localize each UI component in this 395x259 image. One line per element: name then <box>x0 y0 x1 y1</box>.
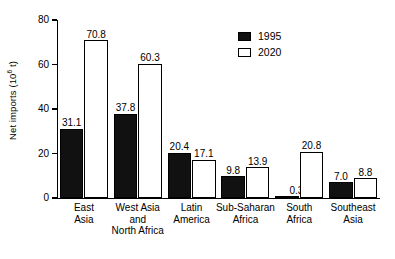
x-axis-category-label-west-asia-and-north-africa: West AsiaandNorth Africa <box>107 202 169 237</box>
y-axis-tick-label-60: 60 <box>38 60 49 70</box>
legend-label-2020: 2020 <box>258 47 281 58</box>
x-axis-category-label-line: America <box>161 214 223 226</box>
x-axis-category-label-line: Asia <box>322 214 384 226</box>
bar-2020-east-asia: 70.8 <box>84 40 108 198</box>
bar-1995-west-asia-and-north-africa: 37.8 <box>114 114 138 198</box>
x-axis-category-label-sub-saharan-africa: Sub-SaharanAfrica <box>215 202 277 225</box>
bar-value-label: 20.4 <box>170 142 189 152</box>
x-axis-category-label-line: Southeast <box>322 202 384 214</box>
x-axis-category-label-line: West Asia <box>107 202 169 214</box>
legend-swatch-2020 <box>238 48 251 58</box>
bar-value-label: 8.8 <box>358 168 372 178</box>
x-axis-category-label-line: North Africa <box>107 225 169 237</box>
x-axis-category-label-line: South <box>268 202 330 214</box>
bar-2020-latin-america: 17.1 <box>192 160 216 198</box>
bar-value-label: 13.9 <box>248 157 267 167</box>
bar-value-label: 7.0 <box>334 172 348 182</box>
x-axis-category-label-latin-america: LatinAmerica <box>161 202 223 225</box>
x-axis-category-label-line: Asia <box>53 214 115 226</box>
bar-2020-west-asia-and-north-africa: 60.3 <box>138 64 162 198</box>
y-axis-line <box>57 20 58 198</box>
bar-2020-southeast-asia: 8.8 <box>354 178 378 198</box>
plot-area: 020406080 31.170.837.860.320.417.19.813.… <box>57 20 380 198</box>
y-axis-tick-0 <box>52 197 57 198</box>
legend-label-1995: 1995 <box>258 31 281 42</box>
y-axis-label-wrapper: Net imports (106 t) <box>0 0 24 200</box>
legend-swatch-1995 <box>238 32 251 42</box>
x-axis-category-label-east-asia: EastAsia <box>53 202 115 225</box>
legend-item-1995: 1995 <box>238 30 281 43</box>
bar-2020-south-africa: 20.8 <box>300 152 324 198</box>
bar-value-label: 31.1 <box>62 118 81 128</box>
y-axis-tick-label-40: 40 <box>38 104 49 114</box>
x-axis-category-label-line: Sub-Saharan <box>215 202 277 214</box>
bar-value-label: 9.8 <box>226 166 240 176</box>
x-axis-line <box>57 198 380 199</box>
bar-1995-sub-saharan-africa: 9.8 <box>221 176 245 198</box>
bar-chart-figure: Net imports (106 t) 020406080 31.170.837… <box>0 0 395 259</box>
x-axis-category-label-line: Africa <box>215 214 277 226</box>
bar-value-label: 17.1 <box>194 149 213 159</box>
y-axis-label-tail: t) <box>7 61 18 70</box>
legend: 19952020 <box>238 30 281 62</box>
x-axis-category-label-south-africa: SouthAfrica <box>268 202 330 225</box>
x-axis-category-label-line: Africa <box>268 214 330 226</box>
y-axis-label: Net imports (106 t) <box>7 61 18 140</box>
y-axis-tick-label-0: 0 <box>43 193 49 203</box>
x-axis-category-label-southeast-asia: SoutheastAsia <box>322 202 384 225</box>
bar-1995-east-asia: 31.1 <box>60 129 84 198</box>
bar-2020-sub-saharan-africa: 13.9 <box>246 167 270 198</box>
bar-1995-latin-america: 20.4 <box>168 153 192 198</box>
x-axis-category-label-line: Latin <box>161 202 223 214</box>
y-axis-tick-20 <box>52 153 57 154</box>
x-axis-category-label-line: East <box>53 202 115 214</box>
legend-item-2020: 2020 <box>238 46 281 59</box>
bar-1995-southeast-asia: 7.0 <box>329 182 353 198</box>
y-axis-tick-label-20: 20 <box>38 149 49 159</box>
y-axis-tick-60 <box>52 64 57 65</box>
y-axis-tick-40 <box>52 108 57 109</box>
bar-value-label: 60.3 <box>140 53 159 63</box>
y-axis-tick-80 <box>52 19 57 20</box>
bar-value-label: 37.8 <box>116 103 135 113</box>
y-axis-tick-label-80: 80 <box>38 15 49 25</box>
y-axis-label-base: Net imports (10 <box>7 73 18 139</box>
bar-value-label: 20.8 <box>302 141 321 151</box>
bar-1995-south-africa: 0.3 <box>275 196 299 198</box>
bar-value-label: 70.8 <box>86 30 105 40</box>
x-axis-category-label-line: and <box>107 214 169 226</box>
